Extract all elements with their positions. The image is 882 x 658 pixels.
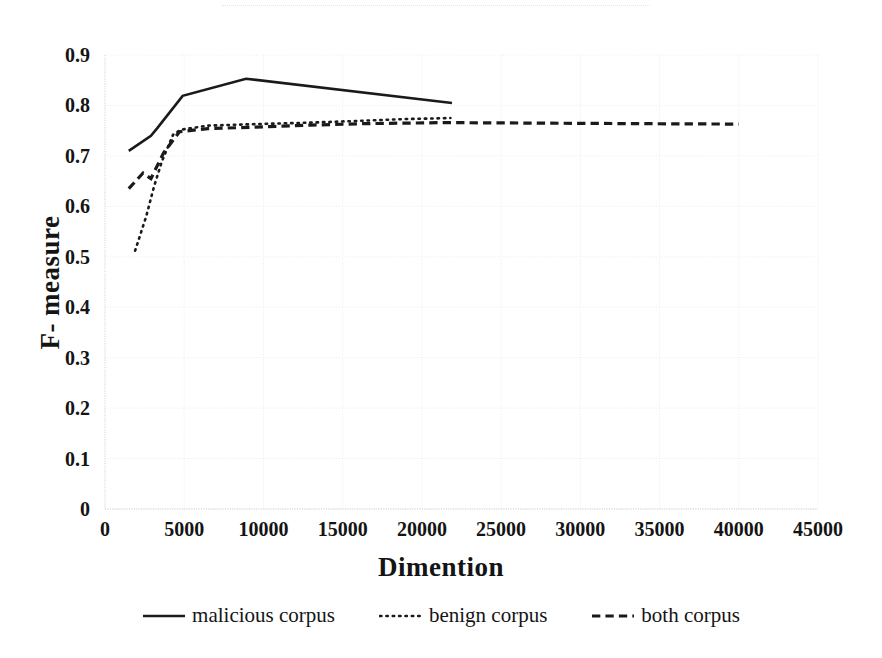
- chart-figure: 00.10.20.30.40.50.60.70.80.9 05000100001…: [0, 0, 882, 658]
- legend-label: both corpus: [641, 603, 740, 628]
- x-tick-label: 25000: [476, 518, 526, 541]
- x-tick-label: 10000: [238, 518, 288, 541]
- chart-legend: malicious corpusbenign corpusboth corpus: [0, 603, 882, 628]
- y-tick-label: 0.9: [20, 44, 90, 67]
- x-tick-label: 15000: [318, 518, 368, 541]
- legend-swatch-solid: [142, 609, 186, 623]
- y-tick-label: 0: [20, 498, 90, 521]
- legend-item[interactable]: benign corpus: [379, 603, 547, 628]
- legend-label: malicious corpus: [192, 603, 335, 628]
- legend-item[interactable]: malicious corpus: [142, 603, 335, 628]
- x-axis-title: Dimention: [0, 552, 882, 583]
- series-line-benign-corpus: [135, 118, 450, 251]
- data-series-layer: [129, 79, 739, 251]
- series-line-malicious-corpus: [129, 79, 452, 151]
- y-tick-label: 0.8: [20, 94, 90, 117]
- x-tick-label: 0: [100, 518, 110, 541]
- legend-swatch-dotted: [379, 609, 423, 623]
- x-tick-label: 5000: [164, 518, 204, 541]
- x-tick-label: 30000: [555, 518, 605, 541]
- x-tick-label: 35000: [635, 518, 685, 541]
- y-axis-title: F- measure: [35, 153, 66, 413]
- legend-swatch-dashed: [591, 609, 635, 623]
- legend-label: benign corpus: [429, 603, 547, 628]
- x-tick-label: 20000: [397, 518, 447, 541]
- x-tick-label: 40000: [714, 518, 764, 541]
- legend-item[interactable]: both corpus: [591, 603, 740, 628]
- y-tick-label: 0.1: [20, 447, 90, 470]
- x-tick-label: 45000: [793, 518, 843, 541]
